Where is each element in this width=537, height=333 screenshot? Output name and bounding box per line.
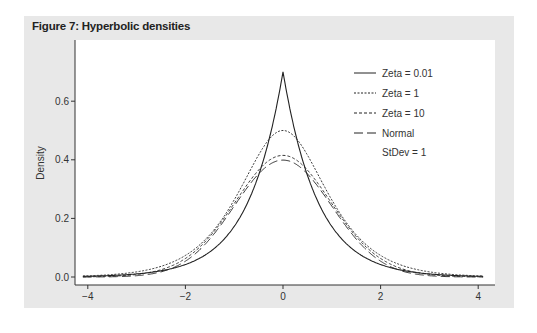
y-tick-label: 0.4 — [55, 154, 69, 165]
legend-item-label: Normal — [382, 128, 414, 139]
stdev-note: StDev = 1 — [382, 147, 427, 158]
legend-item-label: Zeta = 10 — [382, 108, 425, 119]
density-chart: −4−20240.00.20.40.6 Zeta = 0.01Zeta = 1Z… — [0, 0, 537, 333]
y-tick-label: 0.2 — [55, 213, 69, 224]
x-tick-label: 4 — [475, 291, 481, 302]
y-tick-label: 0.0 — [55, 272, 69, 283]
legend-item-label: Zeta = 1 — [382, 88, 419, 99]
y-tick-label: 0.6 — [55, 96, 69, 107]
y-axis-label: Density — [35, 146, 46, 179]
x-tick-label: 0 — [280, 291, 286, 302]
x-tick-label: 2 — [378, 291, 384, 302]
legend-item-label: Zeta = 0.01 — [382, 68, 433, 79]
x-tick-label: −4 — [82, 291, 94, 302]
x-tick-label: −2 — [180, 291, 192, 302]
